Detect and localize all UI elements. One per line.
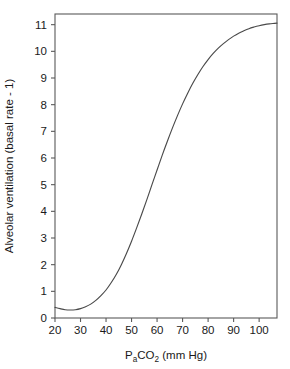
x-tick-label-70: 70 [176,324,189,336]
y-axis-title: Alveolar ventilation (basal rate - 1) [3,79,15,254]
x-tick-label-90: 90 [227,324,240,336]
x-tick-label-100: 100 [250,324,269,336]
x-tick-label-30: 30 [74,324,87,336]
x-tick-label-80: 80 [202,324,215,336]
y-tick-label-3: 3 [41,232,47,244]
y-tick-label-1: 1 [41,285,47,297]
y-tick-label-7: 7 [41,125,47,137]
y-tick-label-9: 9 [41,72,47,84]
x-tick-label-60: 60 [151,324,164,336]
y-tick-label-4: 4 [41,205,48,217]
y-tick-label-11: 11 [35,19,47,31]
y-tick-label-2: 2 [41,259,47,271]
y-tick-label-6: 6 [41,152,47,164]
y-tick-label-8: 8 [41,99,47,111]
chart-figure: 01234567891011 2030405060708090100 PaCO2… [0,0,290,369]
y-tick-label-0: 0 [41,312,47,324]
y-tick-label-5: 5 [41,179,47,191]
x-tick-label-20: 20 [49,324,62,336]
y-tick-label-10: 10 [34,45,47,57]
alveolar-ventilation-chart: 01234567891011 2030405060708090100 PaCO2… [0,0,290,369]
x-tick-label-50: 50 [125,324,138,336]
x-axis-tick-labels: 2030405060708090100 [49,324,269,336]
x-tick-label-40: 40 [100,324,113,336]
